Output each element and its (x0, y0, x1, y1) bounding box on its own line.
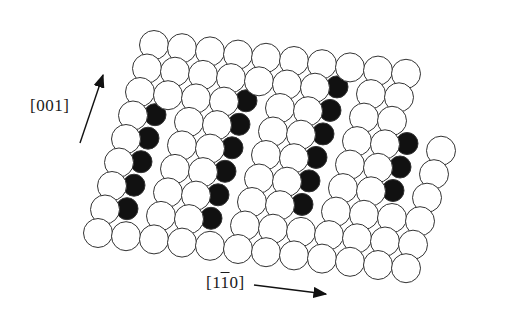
label-suffix: 0] (230, 273, 245, 292)
white-atom (308, 244, 337, 273)
arrow-001-icon (80, 75, 103, 143)
direction-label-1-10: [110] (206, 273, 245, 293)
atom-group (84, 31, 456, 283)
white-atom (84, 219, 113, 248)
label-bar-digit: 1 (221, 273, 230, 292)
white-atom (336, 247, 365, 276)
white-atom (280, 241, 309, 270)
white-atom (245, 67, 274, 96)
white-atom (252, 238, 281, 267)
white-atom (140, 225, 169, 254)
direction-label-001: [001] (30, 96, 69, 116)
white-atom (154, 81, 183, 110)
label-prefix: [1 (206, 273, 221, 292)
label-text: [001] (30, 96, 69, 115)
white-atom (392, 254, 421, 283)
arrow-1m10-icon (254, 285, 326, 294)
white-atom (336, 53, 365, 82)
white-atom (224, 235, 253, 264)
white-atom (168, 228, 197, 257)
white-atom (364, 251, 393, 280)
white-atom (196, 231, 225, 260)
atomic-lattice (0, 0, 515, 320)
white-atom (112, 222, 141, 251)
diagram-canvas: [001] [110] (0, 0, 515, 320)
